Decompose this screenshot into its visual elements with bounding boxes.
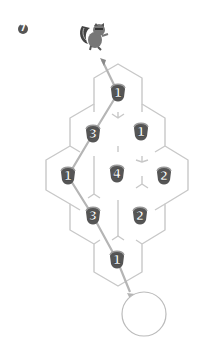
nut-value: 3 bbox=[89, 209, 97, 223]
nut-cell[interactable]: 4 bbox=[110, 165, 124, 182]
nut-cell[interactable]: 1 bbox=[134, 123, 148, 140]
nut-value: 1 bbox=[137, 125, 145, 139]
nut-value: 1 bbox=[64, 169, 72, 183]
nut-cell[interactable]: 2 bbox=[157, 167, 171, 184]
squirrel-icon bbox=[80, 23, 108, 50]
nut-cell[interactable]: 3 bbox=[86, 125, 100, 142]
nut-cell[interactable]: 1 bbox=[110, 251, 124, 268]
nut-value: 1 bbox=[114, 86, 122, 100]
nut-value: 3 bbox=[89, 127, 97, 141]
goal-circle[interactable] bbox=[122, 292, 166, 336]
nut-value: 2 bbox=[160, 169, 168, 183]
nut-value: 4 bbox=[113, 167, 121, 181]
nut-value: 2 bbox=[136, 209, 144, 223]
hex-maze-board: 1 3 1 1 4 2 3 bbox=[0, 0, 204, 347]
nut-cell[interactable]: 3 bbox=[86, 207, 100, 224]
nut-cell[interactable]: 1 bbox=[111, 84, 125, 101]
nut-cell[interactable]: 1 bbox=[61, 167, 75, 184]
nut-value: 1 bbox=[113, 253, 121, 267]
nut-cell[interactable]: 2 bbox=[133, 207, 147, 224]
